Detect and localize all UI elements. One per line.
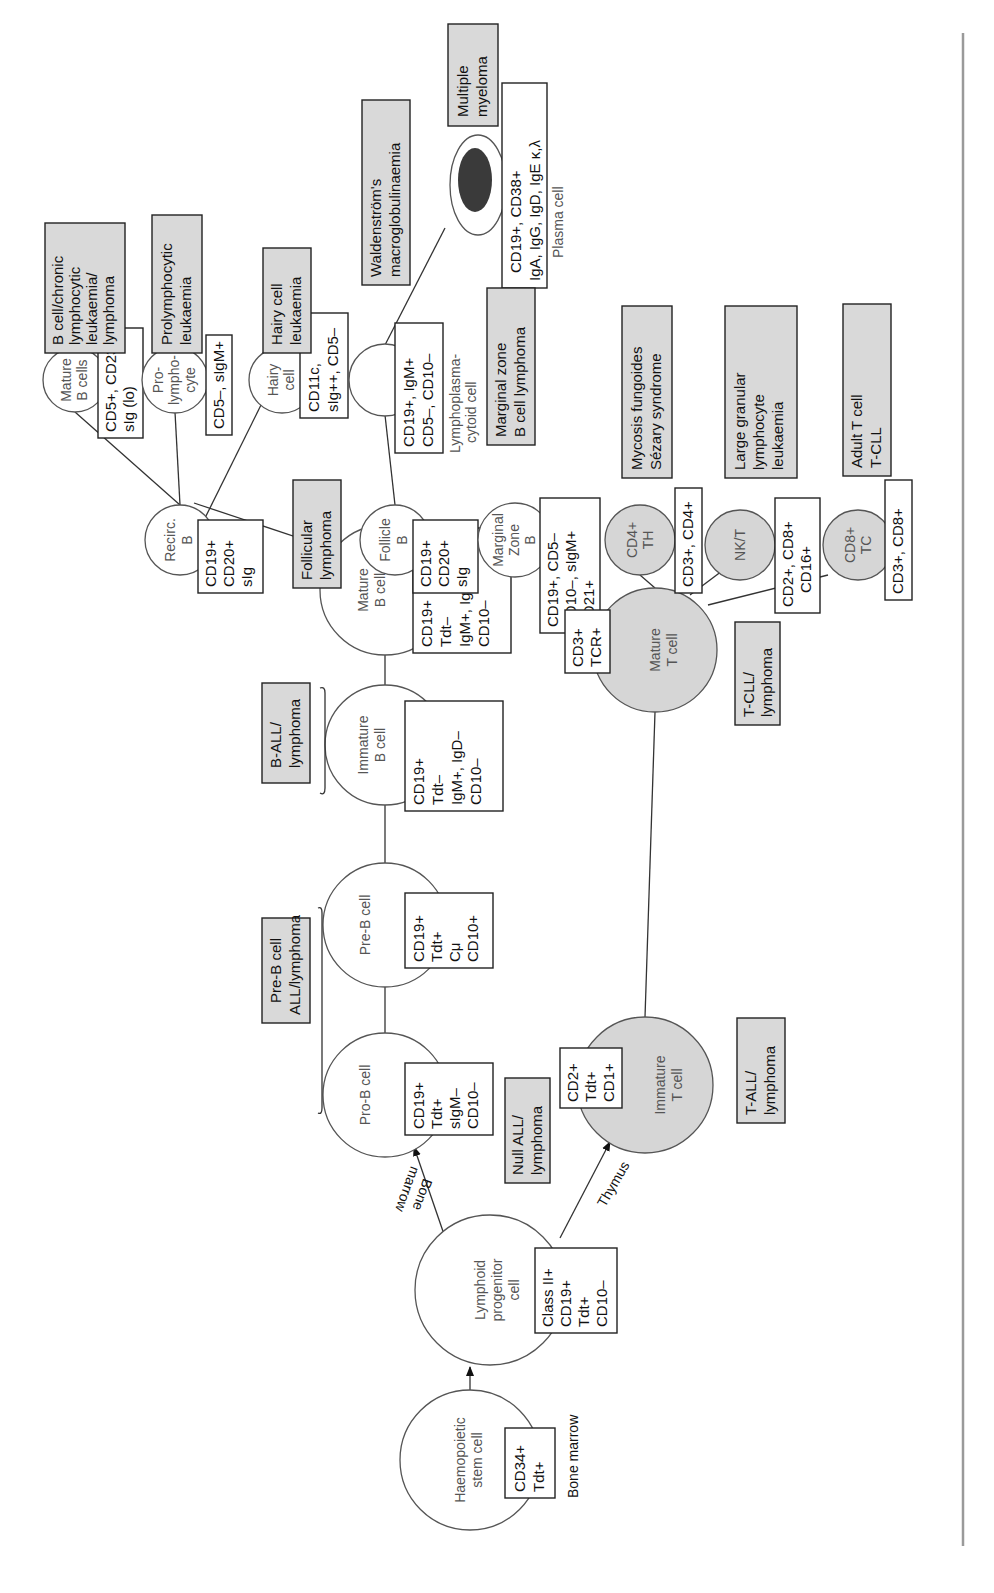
svg-text:Recirc.: Recirc. (162, 518, 178, 562)
svg-text:T cell: T cell (664, 633, 680, 666)
disease-b-cll: B cell/chronic lymphocytic leukaemia/ ly… (45, 223, 125, 353)
svg-text:lymphoma: lymphoma (528, 1105, 545, 1175)
svg-text:CD1+: CD1+ (600, 1063, 617, 1102)
svg-text:CD19+, CD5–: CD19+, CD5– (544, 533, 561, 627)
plasma-nucleus (458, 148, 492, 212)
bracket-immature-b (320, 688, 325, 794)
svg-text:CD34+: CD34+ (511, 1445, 528, 1492)
disease-t-all: T-ALL/ lymphoma (737, 1018, 785, 1123)
svg-text:B cell: B cell (372, 573, 388, 607)
location-bone-marrow: Bone marrow (565, 1414, 581, 1498)
svg-text:CD20+: CD20+ (220, 540, 237, 587)
svg-text:lymphoma: lymphoma (100, 275, 117, 345)
svg-text:CD19+: CD19+ (410, 758, 427, 805)
svg-text:Tdt+: Tdt+ (582, 1071, 599, 1102)
svg-text:lymphoma: lymphoma (317, 510, 334, 580)
svg-text:Multiple: Multiple (454, 65, 471, 117)
svg-text:cyte: cyte (182, 367, 198, 393)
svg-text:Lymphoid: Lymphoid (472, 1260, 488, 1320)
cell-cd4-th: CD4+ TH CD3+, CD4+ (605, 488, 702, 593)
svg-text:CD19+, IgM+: CD19+, IgM+ (400, 358, 417, 447)
svg-text:Tdt+: Tdt+ (575, 1296, 592, 1327)
svg-text:B: B (394, 535, 410, 544)
svg-text:cell: cell (506, 1279, 522, 1300)
svg-text:CD5–, CD10–: CD5–, CD10– (419, 353, 436, 447)
cell-immature-b: Immature B cell CD19+ Tdt– IgM+, IgD– CD… (325, 685, 503, 811)
svg-text:CD3+: CD3+ (569, 628, 586, 667)
disease-hairy-cell-leukaemia: Hairy cell leukaemia (263, 248, 311, 353)
svg-text:CD10+: CD10+ (464, 915, 481, 962)
svg-text:CD10–: CD10– (467, 758, 484, 805)
svg-text:CD19+: CD19+ (202, 540, 219, 587)
svg-text:Tdt–: Tdt– (429, 774, 446, 805)
svg-text:Adult T cell: Adult T cell (848, 394, 865, 468)
svg-text:sIg (lo): sIg (lo) (120, 386, 137, 432)
cell-nk-t: NK/T CD2+, CD8+ CD16+ (705, 498, 820, 613)
svg-text:CD10–: CD10– (464, 1082, 481, 1129)
svg-text:CD19+: CD19+ (410, 915, 427, 962)
svg-text:CD19+: CD19+ (410, 1082, 427, 1129)
disease-mycosis-fungoides: Mycosis fungoides Sézary syndrome (622, 306, 672, 478)
svg-text:leukaemia/: leukaemia/ (83, 272, 100, 345)
svg-text:sIgM–: sIgM– (446, 1087, 463, 1129)
disease-multiple-myeloma: Multiple myeloma (448, 24, 498, 126)
svg-text:Hairy cell: Hairy cell (268, 283, 285, 345)
svg-text:CD8+: CD8+ (842, 527, 858, 563)
disease-follicular-lymphoma: Follicular lymphoma (293, 480, 341, 588)
disease-adult-t-cell: Adult T cell T-CLL (843, 304, 891, 476)
svg-text:lymphoma: lymphoma (761, 1045, 778, 1115)
svg-text:Pre-B cell: Pre-B cell (357, 895, 373, 956)
svg-text:cytoid cell: cytoid cell (463, 382, 479, 443)
svg-text:cell: cell (281, 369, 297, 390)
svg-text:CD11c,: CD11c, (305, 363, 322, 412)
svg-text:TCR+: TCR+ (587, 627, 604, 667)
svg-text:Marginal: Marginal (490, 513, 506, 567)
svg-text:lymphoma: lymphoma (286, 698, 303, 768)
svg-text:Haemopoietic: Haemopoietic (452, 1417, 468, 1503)
disease-marginal-zone-lymphoma: Marginal zone B cell lymphoma (487, 288, 535, 445)
svg-text:myeloma: myeloma (473, 55, 490, 117)
lymphoid-lineage-diagram: Bone marrow Thymus Haemopoietic stem cel… (0, 0, 994, 1593)
svg-text:T-CLL/: T-CLL/ (740, 671, 757, 717)
svg-text:CD19+, CD38+: CD19+, CD38+ (507, 170, 524, 273)
svg-text:Tdt+: Tdt+ (530, 1461, 547, 1492)
svg-text:Pro-B cell: Pro-B cell (357, 1065, 373, 1126)
svg-text:Mycosis fungoides: Mycosis fungoides (628, 347, 645, 470)
svg-text:B cell lymphoma: B cell lymphoma (511, 326, 528, 437)
svg-text:TC: TC (858, 536, 874, 555)
svg-text:Large granular: Large granular (731, 372, 748, 470)
svg-text:Null ALL/: Null ALL/ (509, 1114, 526, 1175)
svg-text:progenitor: progenitor (489, 1258, 505, 1321)
disease-waldenstrom: Waldenström's macroglobulinaemia (362, 100, 410, 285)
svg-text:CD3+, CD4+: CD3+, CD4+ (679, 501, 696, 587)
svg-text:lymphocyte: lymphocyte (750, 394, 767, 470)
svg-text:B: B (522, 535, 538, 544)
svg-text:B cell: B cell (372, 728, 388, 762)
svg-text:Pre-B cell: Pre-B cell (267, 938, 284, 1003)
svg-text:Waldenström's: Waldenström's (367, 179, 384, 277)
svg-text:leukaemia: leukaemia (769, 401, 786, 470)
svg-text:T-ALL/: T-ALL/ (742, 1070, 759, 1115)
svg-text:leukaemia: leukaemia (287, 276, 304, 345)
cell-immature-t: Immature T cell CD2+ Tdt+ CD1+ (560, 1017, 713, 1153)
svg-text:sIg++, CD5–: sIg++, CD5– (324, 327, 341, 412)
svg-text:CD10–: CD10– (593, 1280, 610, 1327)
cell-lymphoid-progenitor: Lymphoid progenitor cell Class II+ CD19+… (415, 1215, 617, 1365)
svg-text:Class II+: Class II+ (539, 1268, 556, 1327)
svg-text:Marginal zone: Marginal zone (492, 343, 509, 437)
svg-text:CD19+: CD19+ (418, 600, 435, 647)
svg-text:Immature: Immature (652, 1055, 668, 1114)
svg-text:Lymphoplasma-: Lymphoplasma- (447, 354, 463, 453)
svg-text:B-ALL/: B-ALL/ (267, 721, 284, 768)
svg-text:CD3+, CD8+: CD3+, CD8+ (889, 508, 906, 594)
disease-t-cll: T-CLL/ lymphoma (735, 622, 780, 725)
svg-text:Tdt–: Tdt– (437, 616, 454, 647)
svg-text:Mature: Mature (58, 358, 74, 402)
svg-text:stem cell: stem cell (469, 1432, 485, 1487)
svg-text:Immature: Immature (355, 715, 371, 774)
svg-text:CD19+: CD19+ (417, 540, 434, 587)
svg-text:Plasma cell: Plasma cell (550, 186, 566, 258)
cell-cd8-tc: CD8+ TC CD3+, CD8+ (823, 480, 912, 600)
svg-text:sIg: sIg (238, 567, 255, 587)
arrow-label-bone-marrow: Bone marrow (392, 1165, 438, 1221)
